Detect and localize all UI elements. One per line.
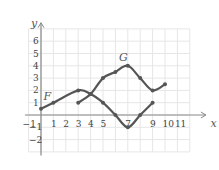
svg-text:3: 3 bbox=[76, 119, 82, 129]
curve-F bbox=[41, 90, 153, 127]
function-graph: −112345791011654321−1−2xy FG bbox=[0, 0, 219, 170]
svg-text:3: 3 bbox=[33, 73, 39, 83]
svg-text:10: 10 bbox=[163, 119, 175, 129]
curve-G bbox=[78, 66, 165, 103]
svg-text:5: 5 bbox=[101, 119, 107, 129]
svg-text:x: x bbox=[210, 117, 217, 130]
svg-text:−1: −1 bbox=[29, 122, 42, 132]
tick-labels: −112345791011654321−1−2xy bbox=[23, 17, 218, 145]
svg-text:F: F bbox=[42, 90, 51, 103]
svg-text:1: 1 bbox=[51, 119, 57, 129]
svg-text:y: y bbox=[30, 17, 38, 30]
svg-text:9: 9 bbox=[150, 119, 156, 129]
svg-text:−2: −2 bbox=[29, 135, 42, 145]
svg-text:1: 1 bbox=[33, 98, 39, 108]
svg-text:4: 4 bbox=[88, 119, 94, 129]
svg-text:2: 2 bbox=[33, 85, 39, 95]
grid bbox=[29, 29, 190, 152]
svg-text:4: 4 bbox=[33, 61, 39, 71]
svg-text:G: G bbox=[119, 51, 128, 64]
svg-text:5: 5 bbox=[33, 49, 39, 59]
svg-text:2: 2 bbox=[63, 119, 69, 129]
svg-text:6: 6 bbox=[33, 36, 39, 46]
svg-text:11: 11 bbox=[175, 119, 186, 129]
